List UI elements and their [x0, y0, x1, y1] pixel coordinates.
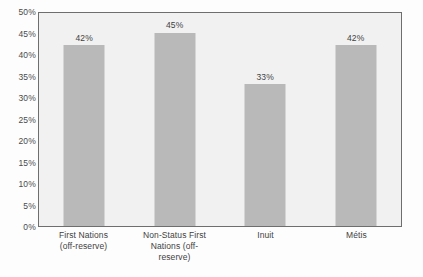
bar-slot: 33% [220, 13, 311, 226]
bar[interactable] [335, 45, 376, 226]
x-axis-tick-label-line: Métis [311, 230, 402, 241]
y-axis-tick-label: 25% [0, 115, 36, 124]
bar[interactable] [154, 33, 195, 227]
x-axis-tick-label-line: Nations (off- [129, 241, 220, 252]
bar-chart: 50%45%40%35%30%25%20%15%10%5%0% 42%45%33… [0, 0, 423, 277]
y-axis-tick-label: 15% [0, 158, 36, 167]
x-axis-tick-label-line: Inuit [220, 230, 311, 241]
y-axis: 50%45%40%35%30%25%20%15%10%5%0% [0, 12, 36, 227]
bar-value-label: 42% [75, 34, 93, 43]
x-axis-tick-label-line: First Nations [38, 230, 129, 241]
x-axis-tick-label: Inuit [220, 230, 311, 241]
x-axis-tick-label: First Nations(off-reserve) [38, 230, 129, 252]
x-axis-tick-label-line: Non-Status First [129, 230, 220, 241]
y-axis-tick-label: 50% [0, 8, 36, 17]
y-axis-tick-label: 0% [0, 223, 36, 232]
y-axis-tick-label: 45% [0, 29, 36, 38]
x-axis-tick-label: Non-Status FirstNations (off-reserve) [129, 230, 220, 263]
plot-inner: 42%45%33%42% [39, 13, 401, 226]
x-axis-tick-label: Métis [311, 230, 402, 241]
y-axis-tick-label: 10% [0, 180, 36, 189]
y-axis-tick-label: 40% [0, 51, 36, 60]
bar-slot: 42% [39, 13, 130, 226]
plot-area: 42%45%33%42% [38, 12, 402, 227]
y-axis-tick-label: 5% [0, 201, 36, 210]
bar-value-label: 42% [347, 34, 365, 43]
x-axis-tick-label-line: reserve) [129, 252, 220, 263]
bar[interactable] [64, 45, 105, 226]
y-axis-tick-label: 30% [0, 94, 36, 103]
bar-slot: 45% [130, 13, 221, 226]
bar-value-label: 45% [166, 21, 184, 30]
y-axis-tick-label: 20% [0, 137, 36, 146]
y-axis-tick-label: 35% [0, 72, 36, 81]
bar-value-label: 33% [256, 73, 274, 82]
x-axis: First Nations(off-reserve)Non-Status Fir… [38, 230, 402, 275]
bar[interactable] [245, 84, 286, 226]
x-axis-tick-label-line: (off-reserve) [38, 241, 129, 252]
bar-slot: 42% [311, 13, 402, 226]
